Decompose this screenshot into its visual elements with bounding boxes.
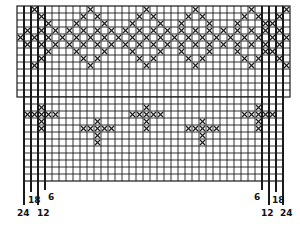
size-label: 24 [280,209,293,218]
size-label: 24 [17,209,30,218]
size-label: 6 [48,193,54,202]
size-label: 12 [37,209,50,218]
size-label: 6 [254,193,260,202]
size-label: 18 [272,196,285,205]
size-label: 18 [28,196,41,205]
size-label: 12 [261,209,274,218]
